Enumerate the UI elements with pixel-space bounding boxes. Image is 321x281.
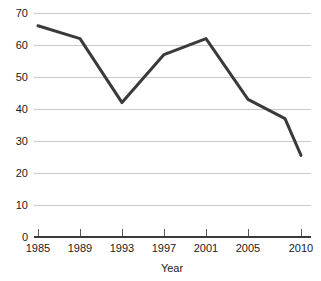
x-tick-label-2010: 2010 (289, 242, 313, 254)
y-tick-label-30: 30 (16, 135, 28, 147)
y-tick-label-40: 40 (16, 103, 28, 115)
x-tick-label-1985: 1985 (26, 242, 50, 254)
y-tick-label-70: 70 (16, 7, 28, 19)
y-tick-label-20: 20 (16, 167, 28, 179)
x-axis-title: Year (161, 262, 184, 274)
line-chart: 010203040506070 198519891993199720012005… (0, 0, 321, 281)
y-tick-label-60: 60 (16, 39, 28, 51)
x-tick-label-2001: 2001 (194, 242, 218, 254)
x-tick-label-1997: 1997 (152, 242, 176, 254)
x-tick-label-2005: 2005 (236, 242, 260, 254)
x-tick-label-1989: 1989 (68, 242, 92, 254)
chart-canvas: 010203040506070 198519891993199720012005… (0, 0, 321, 281)
x-tick-label-1993: 1993 (110, 242, 134, 254)
y-tick-label-10: 10 (16, 199, 28, 211)
y-tick-label-50: 50 (16, 71, 28, 83)
